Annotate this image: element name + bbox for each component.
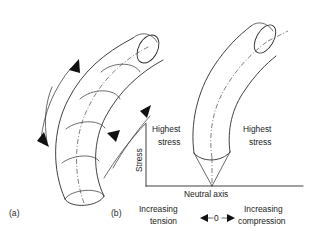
panel-a-bent-bar: (a): [9, 31, 163, 218]
zero-marker-label: 0: [214, 213, 219, 223]
figure-svg: (a) (b): [0, 0, 310, 231]
moment-arrow-inner-upper-head: [107, 130, 120, 142]
figure-container: (a) (b): [0, 0, 310, 231]
moment-arrow-outer-upper-head: [69, 59, 80, 73]
bar-b-top-end-highlight: [251, 23, 273, 31]
bar-a-bottom-end-face: [65, 196, 104, 205]
increasing-tension-line2: tension: [150, 216, 177, 226]
highest-stress-right-line1: Highest: [243, 124, 272, 134]
stress-distribution-diagram: Stress Highest stress Highest stress Neu…: [134, 124, 303, 226]
neutral-axis-label: Neutral axis: [184, 189, 228, 199]
moment-arrow-inner-upper-shaft: [113, 116, 150, 168]
scale-arrow-group: 0: [200, 213, 235, 223]
bar-b-top-end-face: [250, 21, 280, 56]
moment-arrow-inner-lower-head: [140, 105, 151, 118]
bar-a-neutral-axis: [77, 46, 150, 203]
moment-arrow-outer-lower-head: [37, 132, 49, 147]
moment-arrow-outer-lower-shaft: [45, 87, 52, 142]
stress-line-tension: [194, 153, 212, 186]
bar-a-top-end-face: [133, 31, 164, 66]
highest-stress-right-line2: stress: [249, 137, 271, 147]
stress-axis-label: Stress: [134, 148, 144, 172]
bar-a-bottom-end-back: [65, 190, 104, 199]
right-arrow-icon: [227, 214, 235, 222]
panel-b-label: (b): [111, 208, 122, 218]
left-arrow-icon: [200, 214, 208, 222]
highest-stress-left-line2: stress: [158, 137, 180, 147]
bar-a-section-ring-3: [80, 91, 120, 99]
bar-a-section-ring-1: [62, 156, 99, 163]
bar-a-outer-edge: [56, 38, 133, 199]
highest-stress-left-line1: Highest: [152, 124, 181, 134]
stress-line-compression: [212, 152, 230, 186]
increasing-compression-line2: compression: [238, 216, 286, 226]
bar-a-section-ring-2: [66, 122, 105, 129]
increasing-compression-line1: Increasing: [244, 204, 283, 214]
panel-a-label: (a): [9, 208, 20, 218]
bar-b-neutral-axis-extension: [268, 31, 288, 41]
increasing-tension-line1: Increasing: [139, 204, 178, 214]
